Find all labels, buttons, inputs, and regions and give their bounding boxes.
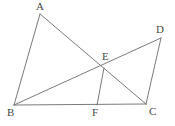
segment-bd bbox=[14, 38, 161, 105]
vertex-label-a: A bbox=[36, 1, 44, 12]
segment-ef bbox=[97, 68, 104, 105]
vertex-label-d: D bbox=[156, 24, 164, 35]
vertex-label-e: E bbox=[102, 51, 109, 62]
segment-ab bbox=[14, 14, 40, 105]
vertex-label-c: C bbox=[149, 106, 156, 117]
segment-dc bbox=[146, 38, 161, 104]
geometry-figure: A B C D E F bbox=[0, 0, 175, 126]
vertex-label-f: F bbox=[92, 107, 98, 118]
segment-ac bbox=[40, 14, 146, 104]
vertex-label-b: B bbox=[7, 107, 14, 118]
segment-bc bbox=[14, 104, 146, 105]
